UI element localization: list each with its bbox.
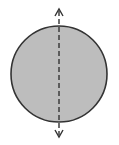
sphere-axis-diagram [0, 0, 119, 145]
diagram-canvas [0, 0, 119, 145]
